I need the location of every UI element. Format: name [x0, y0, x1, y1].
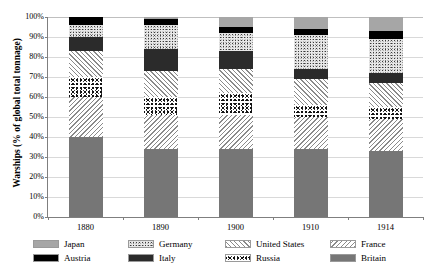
- y-tick-label: 20%: [4, 173, 44, 181]
- legend-label: Italy: [159, 253, 176, 263]
- segment-austria-1880[interactable]: [69, 17, 103, 25]
- x-tick-mark: [198, 217, 199, 220]
- segment-russia-1880[interactable]: [69, 77, 103, 97]
- segment-russia-1890[interactable]: [144, 97, 178, 115]
- y-tick-mark: [45, 117, 48, 118]
- legend-label: Austria: [64, 253, 91, 263]
- segment-russia-1900[interactable]: [219, 93, 253, 115]
- y-tick-mark: [45, 197, 48, 198]
- chart-legend: JapanGermanyUnited StatesFranceAustriaIt…: [0, 238, 431, 268]
- segment-germany-1900[interactable]: [219, 33, 253, 51]
- legend-item-japan[interactable]: Japan: [33, 238, 85, 249]
- legend-item-united-states[interactable]: United States: [225, 238, 304, 249]
- segment-britain-1890[interactable]: [144, 149, 178, 217]
- bar-1914[interactable]: [369, 17, 403, 217]
- x-tick-mark: [273, 217, 274, 220]
- segment-britain-1880[interactable]: [69, 137, 103, 217]
- segment-germany-1880[interactable]: [69, 25, 103, 37]
- segment-france-1880[interactable]: [69, 97, 103, 137]
- x-tick-mark: [123, 217, 124, 220]
- segment-germany-1914[interactable]: [369, 39, 403, 73]
- bar-1890[interactable]: [144, 17, 178, 217]
- x-tick-label-1914: 1914: [356, 222, 416, 232]
- segment-united-states-1910[interactable]: [294, 79, 328, 105]
- segment-italy-1910[interactable]: [294, 69, 328, 79]
- segment-austria-1900[interactable]: [219, 27, 253, 33]
- x-tick-label-1890: 1890: [131, 222, 191, 232]
- x-tick-mark: [348, 217, 349, 220]
- legend-swatch-france: [330, 240, 356, 248]
- segment-russia-1910[interactable]: [294, 105, 328, 117]
- bar-1910[interactable]: [294, 17, 328, 217]
- y-tick-label: 10%: [4, 193, 44, 201]
- x-tick-label-1910: 1910: [281, 222, 341, 232]
- legend-swatch-russia: [225, 254, 251, 262]
- segment-britain-1910[interactable]: [294, 149, 328, 217]
- y-tick-label: 70%: [4, 73, 44, 81]
- legend-label: Britain: [361, 253, 386, 263]
- segment-russia-1914[interactable]: [369, 107, 403, 119]
- y-tick-label: 90%: [4, 33, 44, 41]
- y-tick-label: 60%: [4, 93, 44, 101]
- y-tick-mark: [45, 97, 48, 98]
- y-tick-mark: [45, 177, 48, 178]
- segment-united-states-1900[interactable]: [219, 69, 253, 93]
- segment-united-states-1880[interactable]: [69, 51, 103, 77]
- y-tick-mark: [45, 17, 48, 18]
- legend-label: United States: [256, 239, 304, 249]
- segment-united-states-1914[interactable]: [369, 83, 403, 107]
- y-tick-label: 50%: [4, 113, 44, 121]
- segment-france-1914[interactable]: [369, 119, 403, 151]
- y-tick-mark: [45, 77, 48, 78]
- segment-united-states-1890[interactable]: [144, 71, 178, 97]
- stacked-bar-chart: Warships (% of global total tonnage) 0%1…: [0, 0, 431, 270]
- segment-italy-1900[interactable]: [219, 51, 253, 69]
- y-tick-label: 100%: [4, 13, 44, 21]
- segment-japan-1910[interactable]: [294, 17, 328, 29]
- y-tick-mark: [45, 37, 48, 38]
- segment-austria-1890[interactable]: [144, 19, 178, 25]
- bar-1880[interactable]: [69, 17, 103, 217]
- legend-item-austria[interactable]: Austria: [33, 252, 91, 263]
- legend-swatch-italy: [128, 254, 154, 262]
- segment-britain-1914[interactable]: [369, 151, 403, 217]
- segment-germany-1910[interactable]: [294, 35, 328, 69]
- bar-1900[interactable]: [219, 17, 253, 217]
- legend-swatch-germany: [128, 240, 154, 248]
- segment-japan-1914[interactable]: [369, 17, 403, 31]
- legend-item-russia[interactable]: Russia: [225, 252, 280, 263]
- y-tick-label: 80%: [4, 53, 44, 61]
- legend-item-germany[interactable]: Germany: [128, 238, 193, 249]
- x-tick-mark: [48, 217, 49, 220]
- segment-germany-1890[interactable]: [144, 25, 178, 49]
- segment-austria-1910[interactable]: [294, 29, 328, 35]
- x-tick-label-1880: 1880: [56, 222, 116, 232]
- y-tick-mark: [45, 57, 48, 58]
- legend-item-italy[interactable]: Italy: [128, 252, 176, 263]
- y-tick-label: 0%: [4, 213, 44, 221]
- legend-label: France: [361, 239, 386, 249]
- segment-italy-1880[interactable]: [69, 37, 103, 51]
- plot-area: 0%10%20%30%40%50%60%70%80%90%100%1880189…: [47, 17, 423, 218]
- segment-france-1890[interactable]: [144, 115, 178, 149]
- segment-japan-1890[interactable]: [144, 17, 178, 19]
- x-tick-mark: [423, 217, 424, 220]
- y-tick-label: 40%: [4, 133, 44, 141]
- segment-austria-1914[interactable]: [369, 31, 403, 39]
- legend-label: Russia: [256, 253, 280, 263]
- y-tick-mark: [45, 137, 48, 138]
- segment-france-1900[interactable]: [219, 115, 253, 149]
- segment-japan-1900[interactable]: [219, 17, 253, 27]
- segment-italy-1890[interactable]: [144, 49, 178, 71]
- legend-swatch-united-states: [225, 240, 251, 248]
- segment-france-1910[interactable]: [294, 117, 328, 149]
- legend-label: Germany: [159, 239, 193, 249]
- legend-item-britain[interactable]: Britain: [330, 252, 386, 263]
- y-tick-mark: [45, 157, 48, 158]
- legend-swatch-britain: [330, 254, 356, 262]
- legend-swatch-austria: [33, 254, 59, 262]
- y-tick-label: 30%: [4, 153, 44, 161]
- legend-item-france[interactable]: France: [330, 238, 386, 249]
- segment-italy-1914[interactable]: [369, 73, 403, 83]
- segment-britain-1900[interactable]: [219, 149, 253, 217]
